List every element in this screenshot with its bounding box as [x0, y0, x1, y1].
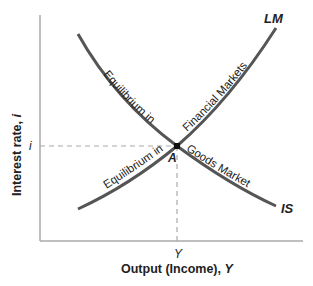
is-label: IS	[281, 201, 294, 216]
is-caption-part-1: Equilibrium in	[102, 68, 158, 125]
point-a-label: A	[167, 151, 177, 165]
lm-caption-part-1: Equilibrium in	[101, 142, 165, 191]
y-axis-title: Interest rate, i	[10, 113, 24, 196]
is-lm-diagram: Equilibrium in Financial Markets Equilib…	[0, 0, 313, 286]
lm-label: LM	[264, 11, 284, 26]
y-tick-i: i	[29, 139, 32, 153]
x-tick-y: Y	[174, 247, 183, 261]
lm-caption-part-2: Financial Markets	[180, 59, 249, 133]
x-axis-title: Output (Income), Y	[121, 262, 234, 276]
is-caption-part-2: Goods Market	[185, 142, 253, 190]
equilibrium-point	[174, 143, 180, 149]
